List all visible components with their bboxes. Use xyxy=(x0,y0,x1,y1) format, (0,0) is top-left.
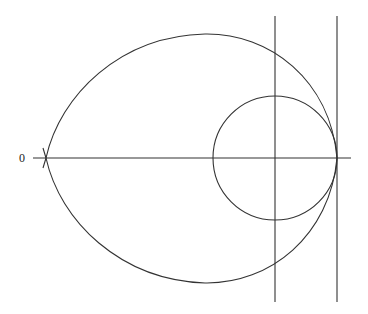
outer-curve-lower xyxy=(43,148,337,283)
origin-label: 0 xyxy=(19,151,25,165)
diagram-canvas: 0 xyxy=(0,0,368,314)
outer-curve-upper xyxy=(43,34,337,168)
